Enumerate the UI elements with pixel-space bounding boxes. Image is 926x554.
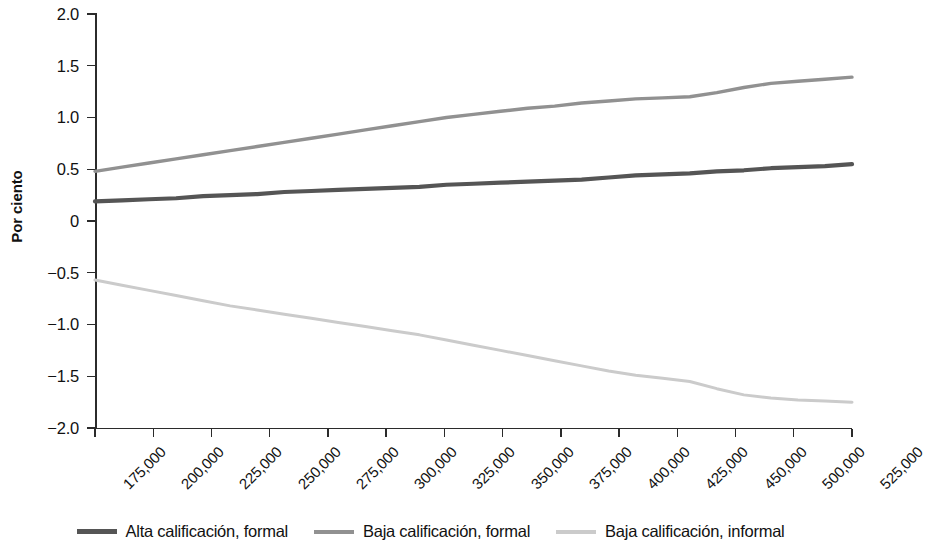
legend-label: Alta calificación, formal [126,522,288,541]
series-line [95,280,852,402]
x-axis-tick-label: 525,000 [876,443,925,492]
series-line [95,164,852,201]
legend-item[interactable]: Alta calificación, formal [77,522,288,541]
series-line [95,77,852,171]
legend-label: Baja calificación, informal [605,522,784,541]
legend-swatch-icon [314,530,354,534]
chart-legend: Alta calificación, formalBaja calificaci… [0,522,861,541]
legend-swatch-icon [77,529,117,534]
legend-label: Baja calificación, formal [363,522,530,541]
legend-item[interactable]: Baja calificación, informal [556,522,784,541]
legend-item[interactable]: Baja calificación, formal [314,522,530,541]
legend-swatch-icon [556,530,596,534]
